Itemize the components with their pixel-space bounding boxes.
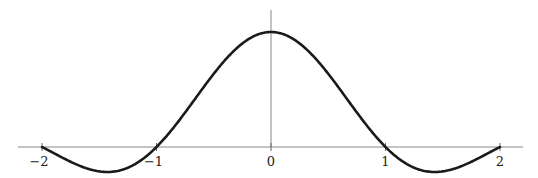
sinc-plot: −2−1012 <box>0 0 538 178</box>
x-tick-label: 0 <box>267 154 275 169</box>
x-tick-labels: −2−1012 <box>29 154 504 169</box>
x-tick-label: 1 <box>381 154 389 169</box>
x-tick-label: −2 <box>29 154 48 169</box>
x-tick-label: 2 <box>496 154 504 169</box>
